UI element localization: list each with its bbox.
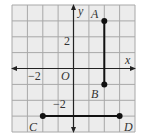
origin-label: O xyxy=(61,69,70,83)
y-tick-label-neg2: −2 xyxy=(53,97,66,111)
point-c xyxy=(40,113,46,119)
point-d-label: D xyxy=(123,120,133,134)
point-b-label: B xyxy=(91,87,99,101)
point-a xyxy=(101,18,107,24)
y-axis-label: y xyxy=(77,4,84,18)
x-axis-label: x xyxy=(124,53,131,67)
x-tick-label-neg2: −2 xyxy=(28,69,41,83)
point-c-label: C xyxy=(29,120,38,134)
coordinate-plane: y x O −2 2 −2 A B C D xyxy=(0,0,145,140)
y-tick-label-2: 2 xyxy=(64,34,70,48)
point-a-label: A xyxy=(90,7,99,21)
point-b xyxy=(101,81,107,87)
point-d xyxy=(117,113,123,119)
